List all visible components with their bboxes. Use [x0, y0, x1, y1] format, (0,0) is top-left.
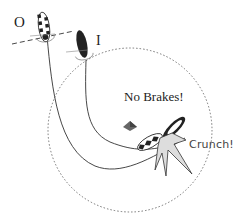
center-marker: [123, 121, 137, 131]
impact-label: Crunch!: [189, 138, 234, 151]
inner-car-label: I: [96, 33, 101, 49]
inner-car: [70, 28, 94, 61]
outer-car-label: O: [14, 14, 25, 31]
diagram-svg: [0, 0, 243, 216]
diagram-canvas: O I No Brakes! Crunch!: [0, 0, 243, 216]
outer-car: [33, 11, 55, 43]
caption-label: No Brakes!: [124, 89, 184, 105]
collision-burst: [155, 133, 192, 176]
